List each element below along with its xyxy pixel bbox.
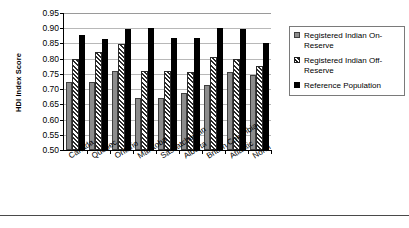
legend-item: Registered Indian On-Reserve [293, 31, 402, 51]
bar [171, 38, 177, 150]
bar-group [110, 13, 133, 150]
bar [204, 85, 210, 150]
y-axis-title: HDI Index Score [14, 28, 23, 138]
bar [210, 57, 216, 150]
bar [102, 39, 108, 150]
bar-group [133, 13, 156, 150]
y-tick-label: 0.60 [42, 115, 59, 125]
bar [263, 43, 269, 150]
y-tick-label: 0.75 [42, 69, 59, 79]
legend-item: Reference Population [293, 81, 402, 91]
y-tick-label: 0.50 [42, 145, 59, 155]
bar [148, 28, 154, 150]
bar [141, 71, 147, 150]
bar [256, 66, 262, 150]
bar [72, 59, 78, 150]
bar-group [64, 13, 87, 150]
bar [250, 75, 256, 150]
chart-legend: Registered Indian On-ReserveRegistered I… [289, 26, 405, 96]
y-tick-label: 0.65 [42, 99, 59, 109]
y-tick-mark [60, 150, 64, 151]
y-tick-label: 0.90 [42, 23, 59, 33]
y-tick-label: 0.55 [42, 130, 59, 140]
legend-label: Registered Indian On-Reserve [304, 31, 402, 51]
legend-item: Registered Indian Off-Reserve [293, 56, 402, 76]
bar [95, 52, 101, 150]
footer-divider [0, 215, 409, 216]
hdi-index-bar-chart: HDI Index Score 0.950.900.850.800.750.70… [0, 0, 409, 228]
y-tick-label: 0.70 [42, 84, 59, 94]
bar [66, 82, 72, 150]
y-tick-label: 0.80 [42, 54, 59, 64]
legend-label: Registered Indian Off-Reserve [304, 56, 402, 76]
legend-swatch-icon [294, 32, 300, 38]
bar [125, 29, 131, 150]
legend-label: Reference Population [304, 81, 402, 91]
bar [118, 44, 124, 150]
y-tick-label: 0.85 [42, 38, 59, 48]
bar [79, 35, 85, 150]
legend-swatch-icon [294, 57, 300, 63]
legend-swatch-icon [294, 82, 300, 88]
y-tick-label: 0.95 [42, 8, 59, 18]
bar-group [156, 13, 179, 150]
bar-group [87, 13, 110, 150]
x-axis-labels: CanadaQuébecOntarioManitobaSaskatchewanA… [63, 153, 270, 211]
bar [217, 28, 223, 150]
